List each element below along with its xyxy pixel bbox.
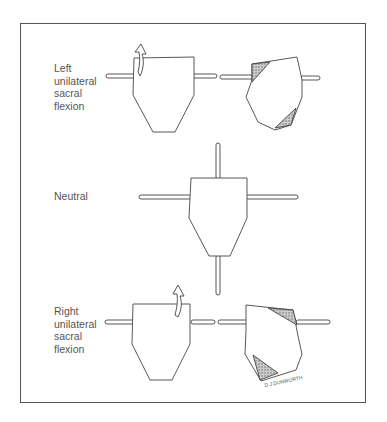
diagram-drawing: D.J.DUNWORTH <box>0 0 387 422</box>
right-flexion-sacrum-rotated <box>218 305 330 381</box>
right-flexion-sacrum-front <box>105 285 215 380</box>
neutral-sacrum <box>139 143 298 295</box>
left-flexion-sacrum-rotated <box>220 57 320 130</box>
left-flexion-sacrum-front <box>106 44 217 132</box>
